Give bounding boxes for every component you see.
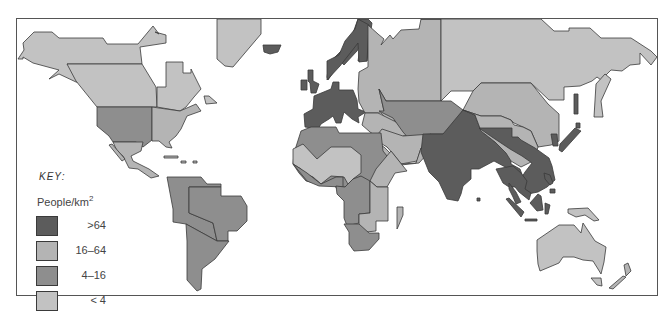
region-nova-scotia: [204, 96, 217, 104]
region-new-guinea: [568, 208, 599, 221]
key-swatch-high: [36, 216, 58, 236]
key-label-high: >64: [66, 219, 106, 231]
region-australia: [537, 223, 606, 274]
region-philippines-2: [550, 189, 555, 193]
key-unit-label: People/km2: [37, 194, 93, 208]
key-swatch-low: [36, 291, 58, 311]
key-swatch-lower-mid: [36, 266, 58, 286]
region-uk: [308, 70, 319, 93]
region-new-zealand-south: [609, 276, 626, 289]
key-swatch-upper-mid: [36, 241, 58, 261]
region-sri-lanka: [477, 198, 480, 201]
region-hokkaido: [576, 123, 580, 128]
world-map: [17, 19, 657, 295]
key-row-low: < 4: [36, 291, 106, 313]
region-tasmania: [591, 278, 602, 286]
region-central-america: [113, 142, 159, 178]
region-canada: [67, 64, 157, 107]
key-label-lower-mid: 4–16: [66, 269, 106, 281]
region-caribbean-2: [181, 161, 186, 163]
key-row-high: >64: [36, 216, 106, 238]
key-label-low: < 4: [66, 294, 106, 306]
key-unit-text: People/km: [37, 196, 89, 208]
key-label-upper-mid: 16–64: [66, 244, 106, 256]
region-borneo: [530, 194, 543, 211]
map-frame: KEY: People/km2 >64 16–64 4–16 < 4: [16, 18, 658, 296]
region-iceland: [263, 45, 281, 54]
region-usa-east: [152, 104, 201, 148]
region-kamchatka: [594, 74, 611, 117]
key-unit-exponent: 2: [89, 194, 93, 203]
region-canada-east: [157, 62, 201, 111]
region-java: [525, 219, 537, 221]
key-row-upper-mid: 16–64: [36, 241, 106, 263]
region-ireland: [301, 80, 307, 90]
region-sakhalin: [574, 94, 578, 114]
key-row-lower-mid: 4–16: [36, 266, 106, 288]
region-caribbean-1: [164, 156, 178, 158]
region-caribbean-3: [193, 161, 197, 163]
region-sulawesi: [545, 203, 550, 214]
key-title: KEY:: [39, 171, 65, 182]
region-greenland: [217, 19, 261, 67]
region-japan: [559, 128, 581, 152]
region-new-zealand-north: [624, 263, 631, 276]
region-madagascar: [397, 207, 403, 229]
region-usa-west: [97, 107, 152, 147]
region-siberia: [421, 19, 657, 101]
